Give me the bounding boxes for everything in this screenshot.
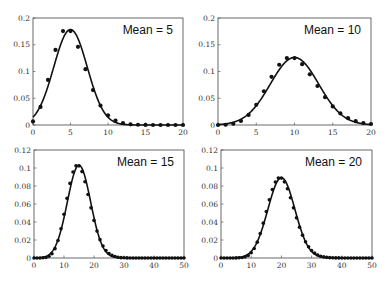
- poisson-point: [101, 244, 105, 248]
- y-tick-label: 0.08: [201, 182, 218, 191]
- y-tick-label: 0: [210, 121, 215, 130]
- mean-annotation: Mean = 20: [305, 155, 362, 169]
- poisson-point: [166, 123, 170, 127]
- x-tick-label: 20: [178, 128, 188, 137]
- x-tick-label: 0: [32, 261, 37, 270]
- poisson-point: [301, 233, 305, 237]
- mean-annotation: Mean = 10: [304, 23, 361, 37]
- poisson-point: [68, 29, 72, 33]
- poisson-point: [370, 256, 374, 260]
- poisson-point: [62, 212, 66, 216]
- poisson-point: [158, 123, 162, 127]
- y-tick-label: 0: [25, 121, 30, 130]
- poisson-point: [331, 104, 335, 108]
- x-tick-label: 5: [254, 128, 259, 137]
- x-tick-label: 40: [149, 261, 159, 270]
- normal-curve: [34, 165, 184, 258]
- poisson-point: [304, 240, 308, 244]
- poisson-point: [346, 116, 350, 120]
- y-tick-label: 0.15: [13, 40, 30, 49]
- x-tick-label: 5: [68, 128, 73, 137]
- x-tick-label: 10: [103, 128, 113, 137]
- y-tick-label: 0.1: [203, 67, 215, 76]
- poisson-normal-figure: 0510152000.050.10.150.2Mean = 5051015200…: [0, 0, 386, 282]
- subplot-mean-5: 0510152000.050.10.150.2Mean = 5: [13, 14, 188, 138]
- poisson-point: [292, 206, 296, 210]
- poisson-point: [322, 255, 326, 259]
- y-tick-label: 0.15: [198, 40, 215, 49]
- poisson-point: [265, 210, 269, 214]
- poisson-point: [254, 103, 258, 107]
- poisson-point: [173, 123, 177, 127]
- x-tick-label: 0: [31, 128, 36, 137]
- x-tick-label: 0: [219, 261, 224, 270]
- poisson-point: [295, 216, 299, 220]
- poisson-point: [46, 78, 50, 82]
- poisson-point: [56, 239, 60, 243]
- poisson-point: [258, 232, 262, 236]
- poisson-point: [38, 105, 42, 109]
- y-tick-label: 0.06: [201, 200, 218, 209]
- x-tick-label: 15: [141, 128, 151, 137]
- poisson-point: [246, 254, 250, 258]
- y-tick-label: 0.08: [14, 182, 31, 191]
- normal-curve: [218, 58, 371, 125]
- poisson-point: [283, 180, 287, 184]
- subplot-mean-10: 0510152000.050.10.150.2Mean = 10: [198, 14, 376, 138]
- poisson-point: [106, 113, 110, 117]
- poisson-point: [95, 229, 99, 233]
- poisson-point: [86, 193, 90, 197]
- mean-annotation: Mean = 5: [123, 23, 174, 37]
- poisson-point: [255, 240, 259, 244]
- poisson-point: [286, 187, 290, 191]
- x-tick-label: 20: [277, 261, 287, 270]
- y-tick-label: 0: [213, 254, 218, 263]
- y-tick-label: 0.06: [14, 200, 31, 209]
- y-tick-label: 0.2: [18, 14, 30, 23]
- subplot-mean-20: 0102030405000.020.040.060.080.10.12Mean …: [201, 146, 377, 271]
- x-tick-label: 15: [328, 128, 338, 137]
- poisson-point: [239, 119, 243, 123]
- poisson-point: [68, 182, 72, 186]
- poisson-point: [59, 227, 63, 231]
- y-tick-label: 0.1: [18, 67, 30, 76]
- poisson-point: [71, 170, 75, 174]
- poisson-point: [249, 251, 253, 255]
- x-tick-label: 10: [59, 261, 69, 270]
- poisson-point: [289, 196, 293, 200]
- poisson-point: [107, 252, 111, 256]
- poisson-point: [128, 122, 132, 126]
- poisson-point: [262, 89, 266, 93]
- poisson-point: [224, 123, 228, 127]
- x-tick-label: 50: [179, 261, 189, 270]
- poisson-point: [47, 254, 51, 258]
- poisson-point: [91, 88, 95, 92]
- mean-annotation: Mean = 15: [117, 155, 174, 169]
- poisson-point: [274, 180, 278, 184]
- poisson-point: [252, 247, 256, 251]
- poisson-point: [136, 123, 140, 127]
- y-tick-label: 0.2: [203, 14, 215, 23]
- normal-curve: [33, 30, 183, 125]
- y-tick-label: 0.04: [201, 218, 218, 227]
- poisson-point: [121, 121, 125, 125]
- poisson-point: [216, 123, 220, 127]
- y-tick-label: 0.1: [19, 164, 31, 173]
- poisson-point: [292, 56, 296, 60]
- poisson-point: [307, 245, 311, 249]
- poisson-point: [319, 254, 323, 258]
- poisson-point: [89, 206, 93, 210]
- poisson-point: [369, 122, 373, 126]
- poisson-point: [308, 72, 312, 76]
- poisson-point: [92, 219, 96, 223]
- y-tick-label: 0.12: [14, 146, 31, 155]
- poisson-point: [182, 256, 186, 260]
- poisson-point: [313, 251, 317, 255]
- poisson-point: [80, 170, 84, 174]
- x-tick-label: 40: [337, 261, 347, 270]
- poisson-point: [261, 221, 265, 225]
- poisson-point: [143, 123, 147, 127]
- x-tick-label: 20: [366, 128, 376, 137]
- poisson-point: [98, 238, 102, 242]
- poisson-point: [53, 48, 57, 52]
